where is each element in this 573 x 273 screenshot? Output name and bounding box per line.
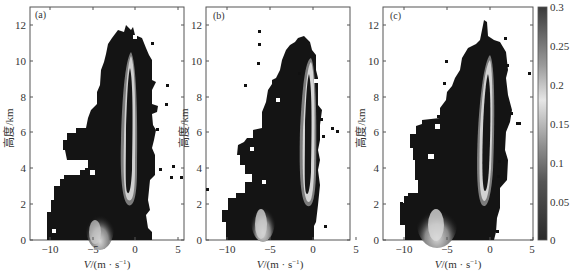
svg-text:−5: −5 [87, 243, 99, 255]
svg-text:−5: −5 [441, 243, 453, 255]
panel-a-label: (a) [35, 9, 46, 21]
panel-a: (a) [30, 7, 184, 250]
panel-b-label: (b) [213, 10, 225, 22]
svg-text:4: 4 [21, 162, 27, 174]
panel-c-label: (c) [390, 10, 401, 22]
svg-text:0: 0 [21, 234, 27, 246]
x-axis-label-c: V/(m · s−1) [435, 258, 482, 271]
svg-text:5: 5 [175, 243, 181, 255]
svg-text:4: 4 [197, 162, 203, 174]
x-axis-label-b: V/(m · s−1) [257, 258, 304, 271]
svg-text:0: 0 [487, 243, 493, 255]
svg-text:10: 10 [191, 55, 203, 67]
svg-text:8: 8 [374, 91, 380, 103]
panel-b: (b) [206, 7, 350, 242]
svg-text:0: 0 [197, 234, 203, 246]
svg-text:6: 6 [197, 126, 203, 138]
svg-text:0.3: 0.3 [550, 1, 564, 13]
svg-text:0: 0 [132, 243, 138, 255]
svg-text:0.1: 0.1 [550, 157, 564, 169]
svg-text:2: 2 [374, 198, 380, 210]
panel-c: (c) [383, 7, 533, 248]
svg-text:2: 2 [21, 198, 27, 210]
svg-text:5: 5 [529, 243, 535, 255]
svg-text:8: 8 [21, 91, 27, 103]
y-axis-label-c: 高度/km [354, 108, 367, 148]
svg-text:−10: −10 [395, 243, 413, 255]
svg-text:0.05: 0.05 [550, 196, 570, 208]
svg-text:10: 10 [15, 55, 27, 67]
svg-text:0: 0 [374, 234, 380, 246]
svg-text:−5: −5 [264, 243, 276, 255]
svg-text:12: 12 [191, 19, 202, 31]
svg-text:−10: −10 [41, 243, 59, 255]
svg-text:5: 5 [353, 243, 359, 255]
figure: (a) (b) [0, 0, 573, 273]
svg-text:4: 4 [374, 162, 380, 174]
svg-text:0.25: 0.25 [550, 40, 570, 52]
svg-text:8: 8 [197, 91, 203, 103]
svg-text:12: 12 [15, 19, 26, 31]
y-axis-label-b: 高度/km [177, 108, 190, 148]
svg-text:0.15: 0.15 [550, 118, 570, 130]
svg-text:−10: −10 [218, 243, 236, 255]
colorbar: 0 0.05 0.1 0.15 0.2 0.25 0.3 [538, 1, 570, 246]
svg-text:6: 6 [21, 126, 27, 138]
svg-text:2: 2 [197, 198, 203, 210]
svg-text:10: 10 [368, 55, 380, 67]
svg-text:12: 12 [368, 19, 379, 31]
y-axis-label-a: 高度/km [2, 108, 15, 148]
svg-text:0: 0 [550, 234, 556, 246]
svg-text:6: 6 [374, 126, 380, 138]
svg-text:0.2: 0.2 [550, 79, 564, 91]
x-axis-label-a: V/(m · s−1) [84, 258, 131, 271]
svg-text:0: 0 [310, 243, 316, 255]
